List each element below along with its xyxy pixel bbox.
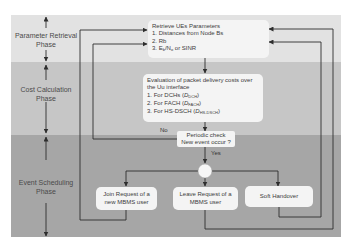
- text: ): [197, 92, 199, 98]
- box-item: 2. Rb: [152, 38, 265, 45]
- text: 2. For FACH (: [147, 100, 184, 106]
- phase-label-line: Phase: [6, 188, 86, 197]
- box-text: Periodic check: [186, 132, 225, 139]
- box-text: Soft Handover: [260, 193, 298, 200]
- evaluation-box: Evaluation of packet delivery costs over…: [143, 74, 263, 122]
- box-item: 1. For DCHs (DDCH): [147, 92, 259, 100]
- box-title: Evaluation of packet delivery costs over: [147, 77, 259, 84]
- text: 3. E: [152, 45, 163, 51]
- subscript: FACH: [188, 102, 199, 107]
- phase-label-parameter-retrieval: Parameter Retrieval Phase: [6, 32, 86, 49]
- subscript: DCH: [188, 94, 197, 99]
- phase-label-line: Phase: [6, 95, 86, 104]
- phase-label-line: Phase: [6, 41, 86, 50]
- box-item: 3. For HS-DSCH (DHS-DSCH): [147, 108, 259, 116]
- box-title: the Uu interface: [147, 84, 259, 91]
- box-text: Join Request of a: [103, 191, 150, 198]
- box-item: 2. For FACH (DFACH): [147, 100, 259, 108]
- soft-handover-box: Soft Handover: [245, 186, 313, 207]
- decision-box: Periodic check New event occur ?: [177, 131, 235, 147]
- box-item: 3. Eb/No or SINR: [152, 45, 265, 53]
- phase-label-cost-calculation: Cost Calculation Phase: [6, 86, 86, 103]
- subscript: HS-DSCH: [200, 110, 218, 115]
- join-request-box: Join Request of a new MBMS user: [96, 187, 157, 210]
- retrieve-parameters-box: Retrieve UEs Parameters 1. Distances fro…: [148, 20, 269, 58]
- phase-label-line: Parameter Retrieval: [6, 32, 86, 41]
- text: ): [218, 108, 220, 114]
- box-text: Leave Request of a: [179, 191, 231, 198]
- text: or SINR: [173, 45, 196, 51]
- box-item: 1. Distances from Node Bs: [152, 30, 265, 37]
- text: ): [199, 100, 201, 106]
- yes-label: Yes: [211, 150, 221, 156]
- box-title: Retrieve UEs Parameters: [152, 23, 265, 30]
- box-text: New event occur ?: [181, 139, 231, 146]
- no-label: No: [160, 127, 168, 133]
- text: 3. For HS-DSCH (: [147, 108, 195, 114]
- phase-label-line: Cost Calculation: [6, 86, 86, 95]
- box-text: MBMS user: [190, 199, 221, 206]
- phase-label-event-scheduling: Event Scheduling Phase: [6, 179, 86, 196]
- leave-request-box: Leave Request of a MBMS user: [173, 187, 238, 210]
- text: 1. For DCHs (: [147, 92, 184, 98]
- phase-label-line: Event Scheduling: [6, 179, 86, 188]
- box-text: new MBMS user: [104, 199, 148, 206]
